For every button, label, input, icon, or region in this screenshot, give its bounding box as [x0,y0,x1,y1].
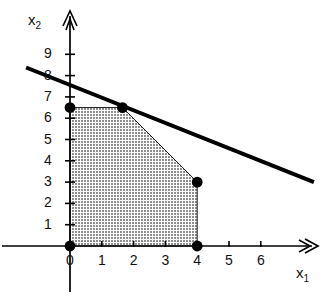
y-tick-label: 8 [39,67,57,83]
vertex-marker [117,102,128,113]
y-tick-label: 9 [39,45,57,61]
y-tick-label: 7 [39,88,57,104]
y-tick-label: 5 [39,131,57,147]
y-tick-label: 2 [39,194,57,210]
vertex-marker [65,102,76,113]
x-tick-label: 6 [249,252,273,268]
x-tick-label: 0 [58,252,82,268]
vertex-marker [65,241,76,252]
vertex-marker [192,177,203,188]
x-tick-label: 2 [122,252,146,268]
y-tick-label: 3 [39,173,57,189]
y-tick-label: 6 [39,109,57,125]
x-tick-label: 1 [90,252,114,268]
chart-canvas: x2 x1 0123456 123456789 [0,0,331,304]
x-tick-label: 5 [217,252,241,268]
x-tick-label: 4 [185,252,209,268]
y-axis-label: x2 [28,11,41,31]
x-tick-label: 3 [153,252,177,268]
y-tick-label: 4 [39,152,57,168]
y-tick-label: 1 [39,216,57,232]
x-axis-label: x1 [296,264,309,284]
vertex-marker [192,241,203,252]
